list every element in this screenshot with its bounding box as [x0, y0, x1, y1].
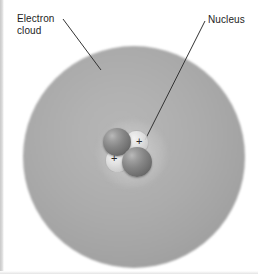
scan-edge-strip-left — [0, 0, 4, 274]
proton-charge-plus-icon-lower-left: + — [111, 153, 117, 164]
atom-diagram-figure: + + Electron cloud Nucleus — [0, 0, 258, 274]
neutron-lower-right — [122, 147, 152, 177]
label-nucleus: Nucleus — [208, 14, 245, 26]
nucleus: + + — [103, 126, 161, 182]
label-electron-cloud: Electron cloud — [17, 13, 55, 36]
proton-charge-plus-icon-upper-right: + — [136, 136, 142, 147]
